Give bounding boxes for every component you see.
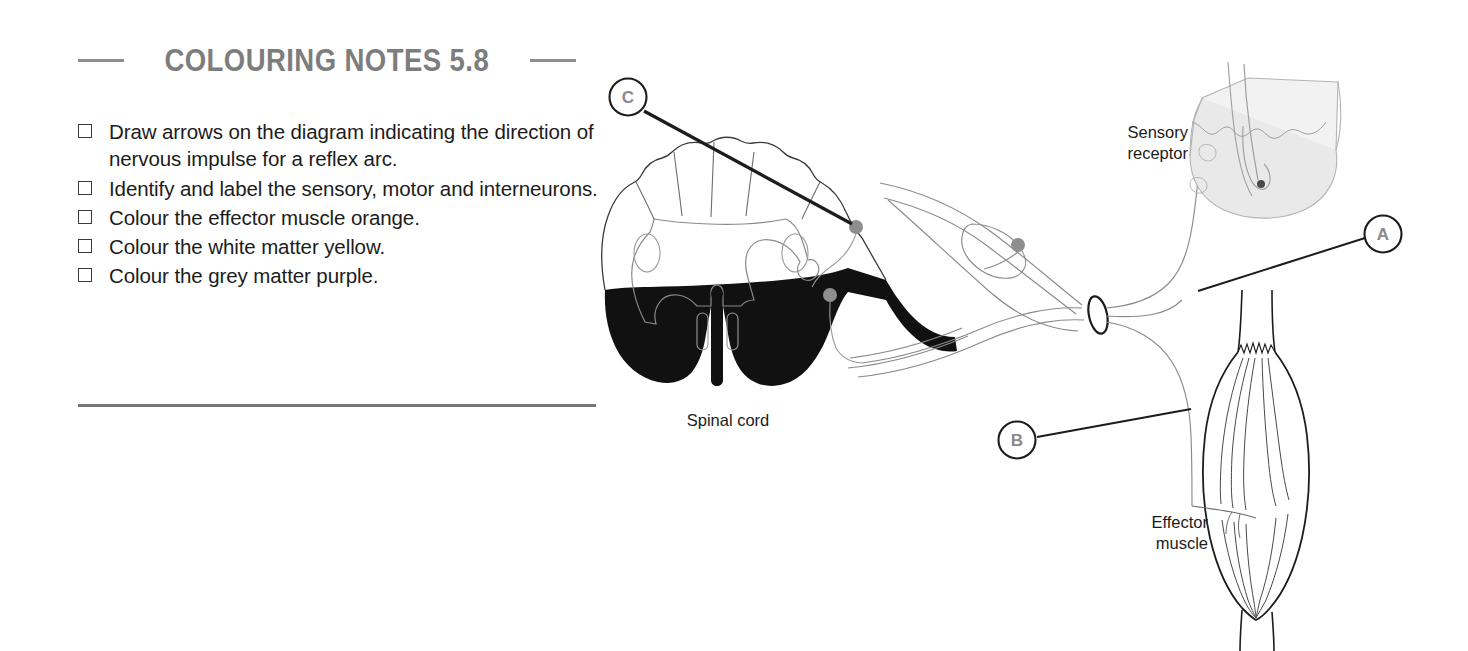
lateral-funiculus-left: [634, 234, 660, 272]
neuromuscular-junction-branch-1: [1226, 512, 1232, 534]
hair-shaft: [1244, 64, 1258, 180]
nerve-root-wedge: [888, 200, 1078, 331]
neuromuscular-junction: [1192, 506, 1256, 518]
interneuron-process: [812, 234, 856, 287]
notes-header: Colouring Notes 5.8: [78, 38, 598, 82]
leader-line-a: [1198, 238, 1365, 291]
checkbox-task-1[interactable]: [78, 124, 92, 138]
ventral-root-lower-edge: [858, 320, 1084, 377]
skin-block-top-face: [1202, 78, 1338, 150]
spinal-cord-outline: [602, 137, 886, 290]
spinal-nerve-roots: [848, 150, 1200, 506]
motor-neuron-cell-body: [823, 288, 837, 302]
hair-root-bulb: [1257, 180, 1265, 188]
ventral-fissure-slit-right: [727, 313, 738, 350]
label-spinal-cord: Spinal cord: [638, 410, 818, 431]
colouring-notes-panel: Colouring Notes 5.8 Draw arrows on the d…: [0, 0, 620, 430]
muscle-fiber-striations-lower: [1222, 514, 1288, 618]
muscle-tendon-lower-right: [1272, 612, 1274, 651]
checkbox-task-2[interactable]: [78, 181, 92, 195]
muscle-belly-top-serration: [1238, 343, 1275, 353]
muscle-belly-outline: [1203, 352, 1309, 620]
leader-line-b: [1037, 409, 1191, 437]
header-rule-left: [78, 59, 124, 62]
list-item[interactable]: Draw arrows on the diagram indicating th…: [78, 118, 598, 173]
note-text: Colour the white matter yellow.: [109, 233, 385, 260]
nerve-branch-guide: [1106, 300, 1182, 317]
dorsal-notch-2: [674, 152, 682, 216]
central-canal-bulb: [711, 288, 723, 300]
note-text: Identify and label the sensory, motor an…: [109, 175, 598, 202]
ventral-root-upper-edge: [862, 308, 1082, 363]
hair-follicle: [1243, 126, 1270, 189]
marker-b-letter: B: [1011, 431, 1023, 450]
muscle-tendon-lower-left: [1240, 610, 1242, 651]
dorsal-root-ganglion: [962, 224, 1026, 278]
list-item[interactable]: Colour the white matter yellow.: [78, 233, 598, 260]
ventral-root-fiber-2: [848, 336, 968, 368]
epidermis-boundary: [1192, 122, 1326, 138]
checkbox-task-3[interactable]: [78, 210, 92, 224]
muscle-tendon-upper-left: [1238, 290, 1242, 352]
page-title: Colouring Notes 5.8: [164, 44, 489, 76]
dorsal-notch-3: [746, 152, 754, 216]
grey-matter-outline: [632, 219, 819, 324]
ganglion-inner-fiber: [984, 252, 1018, 269]
dorsal-notch-5: [802, 182, 820, 219]
marker-a-circle[interactable]: [1365, 216, 1402, 253]
dermal-papilla-1: [1199, 144, 1216, 161]
marker-a-letter: A: [1377, 225, 1389, 244]
lateral-funiculus-right: [782, 234, 808, 272]
dorsal-notch-4: [636, 182, 654, 219]
label-effector-muscle: Effector muscle: [1048, 512, 1208, 554]
marker-circles: A B C: [610, 79, 1402, 459]
muscle-fiber-striations-upper: [1220, 358, 1289, 510]
spinal-cord-illustration: [602, 137, 957, 386]
header-rule-right: [530, 59, 576, 62]
leader-line-c: [644, 111, 852, 224]
note-text: Draw arrows on the diagram indicating th…: [109, 118, 598, 173]
dorsal-notch-1: [711, 142, 714, 217]
ventral-white-matter-band: [605, 268, 957, 386]
list-item[interactable]: Colour the grey matter purple.: [78, 262, 598, 289]
notes-footer-rule: [78, 404, 596, 407]
effector-muscle-illustration: [1192, 290, 1309, 651]
skin-block-top-edge: [1190, 98, 1202, 156]
skin-block-right-edge: [1336, 82, 1341, 150]
dermal-papilla-2: [1190, 177, 1207, 193]
leader-lines: [644, 111, 1365, 437]
checkbox-task-5[interactable]: [78, 268, 92, 282]
muscle-tendon-upper-right: [1272, 290, 1275, 352]
list-item[interactable]: Identify and label the sensory, motor an…: [78, 175, 598, 202]
label-sensory-receptor: Sensory receptor: [1020, 122, 1188, 164]
neuromuscular-junction-branch-2: [1239, 514, 1241, 538]
dorsal-root-upper-edge: [880, 183, 1082, 305]
dorsal-root-lower-edge: [884, 198, 1076, 314]
sensory-ganglion-cell-body: [1011, 238, 1025, 252]
marker-b-circle[interactable]: [999, 422, 1036, 459]
notes-checklist: Draw arrows on the diagram indicating th…: [78, 118, 598, 292]
ventral-root-fiber-1: [850, 328, 962, 358]
motor-neuron-axon: [830, 302, 862, 363]
interneuron-cell-body: [849, 220, 863, 234]
note-text: Colour the grey matter purple.: [109, 262, 378, 289]
marker-b[interactable]: B: [999, 422, 1036, 459]
spinal-nerve-cross-section: [1085, 295, 1111, 336]
list-item[interactable]: Colour the effector muscle orange.: [78, 204, 598, 231]
receptor-nerve-fiber: [1228, 62, 1252, 196]
note-text: Colour the effector muscle orange.: [109, 204, 420, 231]
sensory-nerve-branch: [1106, 150, 1200, 308]
skin-block-body: [1190, 94, 1337, 218]
motor-nerve-branch: [1106, 322, 1192, 506]
ventral-fissure-slit-left: [697, 313, 708, 350]
checkbox-task-4[interactable]: [78, 239, 92, 253]
sensory-receptor-illustration: [1190, 62, 1341, 218]
marker-a[interactable]: A: [1365, 216, 1402, 253]
marker-c-letter: C: [622, 88, 634, 107]
